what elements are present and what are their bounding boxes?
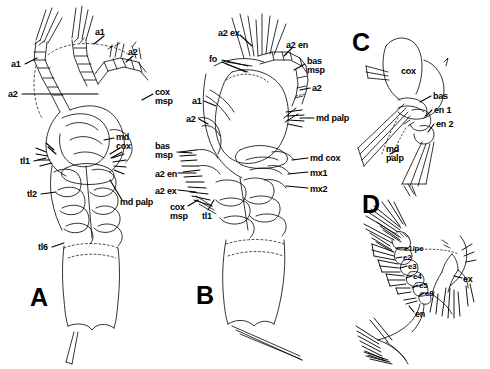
anatomy-label-a-3: a2	[128, 48, 138, 57]
scientific-figure: a1a1a2a2cox mspmd coxtl1tl2md palptl6a2 …	[0, 0, 490, 369]
anatomy-label-a-1: a1	[95, 28, 105, 37]
panel-letter-b: B	[196, 283, 214, 308]
anatomy-label-b-7: md palp	[316, 114, 349, 123]
anatomy-label-a-8: md palp	[120, 198, 153, 207]
anatomy-label-c-0: cox	[401, 67, 416, 76]
anatomy-label-b-6: a2	[186, 115, 196, 124]
anatomy-label-b-3: bas msp	[307, 57, 325, 75]
panel-a-drawing	[34, 6, 148, 364]
anatomy-label-d-2: e3	[408, 263, 417, 271]
anatomy-label-b-14: cox msp	[170, 203, 188, 221]
anatomy-label-a-6: tl1	[20, 157, 30, 166]
anatomy-label-b-0: a2 ex	[218, 29, 240, 38]
panel-letter-a: A	[30, 285, 48, 310]
anatomy-label-b-9: a2 en	[155, 170, 177, 179]
anatomy-label-c-2: en 1	[434, 106, 451, 115]
anatomy-label-a-9: tl6	[38, 243, 48, 252]
anatomy-label-a-7: tl2	[27, 190, 37, 199]
anatomy-label-a-4: cox msp	[155, 88, 173, 106]
anatomy-label-d-6: en	[415, 310, 425, 319]
panel-letter-c: C	[352, 30, 370, 55]
anatomy-label-d-7: ex	[463, 275, 473, 284]
anatomy-label-b-11: mx1	[310, 169, 327, 178]
anatomy-label-b-12: a2 ex	[155, 187, 177, 196]
anatomy-label-d-3: e4	[413, 273, 422, 281]
anatomy-label-c-1: bas	[433, 92, 448, 101]
anatomy-label-a-2: a2	[8, 90, 18, 99]
anatomy-label-b-8: bas msp	[155, 142, 173, 160]
anatomy-label-b-1: a2 en	[286, 41, 308, 50]
anatomy-label-b-5: a1	[192, 97, 202, 106]
anatomy-label-d-1: e2	[403, 254, 412, 262]
anatomy-label-a-0: a1	[11, 60, 21, 69]
anatomy-label-d-5: e6	[425, 290, 434, 298]
anatomy-label-d-0: e1/pe	[404, 245, 423, 253]
anatomy-label-b-15: tl1	[202, 212, 212, 221]
anatomy-label-b-2: fo	[209, 55, 217, 64]
anatomy-label-c-3: en 2	[436, 120, 453, 129]
anatomy-label-c-4: md palp	[386, 145, 404, 163]
panel-letter-d: D	[362, 192, 380, 217]
anatomy-label-a-5: md cox	[116, 133, 131, 151]
anatomy-label-b-10: md cox	[310, 154, 340, 163]
anatomy-label-b-13: mx2	[310, 185, 327, 194]
anatomy-label-b-4: a2	[312, 84, 322, 93]
